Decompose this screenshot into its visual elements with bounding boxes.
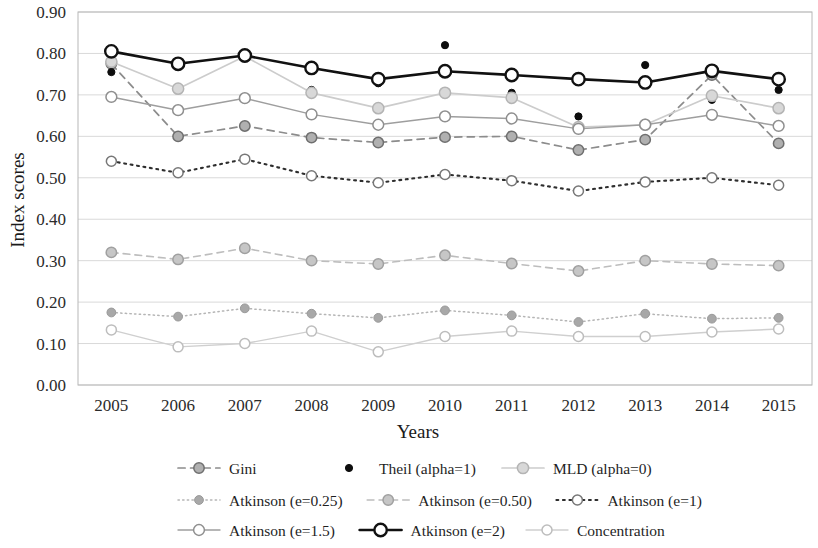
y-tick-0.60: 0.60	[36, 127, 66, 146]
data-point	[574, 318, 583, 327]
data-point	[640, 332, 650, 342]
y-tick-0.10: 0.10	[36, 335, 66, 354]
data-point	[774, 324, 784, 334]
data-point	[307, 326, 317, 336]
x-tick-2014: 2014	[695, 396, 730, 415]
legend-label: Atkinson (e=1)	[607, 492, 701, 510]
data-point	[575, 113, 582, 120]
x-tick-2015: 2015	[762, 396, 796, 415]
data-point	[441, 42, 448, 49]
data-point	[708, 314, 717, 323]
data-point	[373, 103, 384, 114]
data-point	[517, 462, 528, 473]
legend-label: Atkinson (e=1.5)	[229, 522, 335, 540]
data-point	[772, 73, 784, 85]
data-point	[506, 69, 518, 81]
data-point	[775, 86, 782, 93]
x-tick-2006: 2006	[161, 396, 195, 415]
data-point	[173, 131, 183, 141]
data-point	[573, 266, 583, 276]
data-point	[506, 113, 517, 124]
y-tick-0.70: 0.70	[36, 86, 66, 105]
data-point	[106, 325, 116, 335]
data-point	[194, 525, 205, 536]
y-tick-0.20: 0.20	[36, 293, 66, 312]
data-point	[306, 109, 317, 120]
data-point	[773, 121, 784, 132]
data-point	[572, 73, 584, 85]
data-point	[383, 495, 393, 505]
data-point	[773, 138, 783, 148]
y-tick-0.40: 0.40	[36, 210, 66, 229]
data-point	[195, 496, 204, 505]
x-tick-2007: 2007	[228, 396, 263, 415]
data-point	[174, 312, 183, 321]
data-point	[573, 123, 584, 134]
legend-label: Concentration	[577, 522, 665, 539]
data-point	[372, 73, 384, 85]
data-point	[507, 311, 516, 320]
x-tick-2011: 2011	[495, 396, 528, 415]
data-point	[507, 131, 517, 141]
data-point	[573, 186, 583, 196]
data-point	[306, 132, 316, 142]
data-point	[640, 134, 650, 144]
y-tick-0.80: 0.80	[36, 44, 66, 63]
data-point	[706, 90, 717, 101]
x-tick-2012: 2012	[561, 396, 595, 415]
data-point	[106, 92, 117, 103]
y-tick-0.50: 0.50	[36, 169, 66, 188]
data-point	[439, 87, 450, 98]
legend-label: Atkinson (e=0.25)	[229, 492, 343, 510]
data-point	[305, 62, 317, 74]
data-point	[640, 119, 651, 130]
data-point	[507, 258, 517, 268]
data-point	[640, 255, 650, 265]
data-point	[306, 255, 316, 265]
data-point	[572, 495, 582, 505]
data-point	[105, 45, 117, 57]
data-point	[507, 326, 517, 336]
data-point	[441, 306, 450, 315]
x-tick-2013: 2013	[628, 396, 662, 415]
y-axis-title: Index scores	[7, 152, 28, 248]
data-point	[306, 87, 317, 98]
data-point	[307, 171, 317, 181]
data-point	[707, 327, 717, 337]
legend-label: MLD (alpha=0)	[553, 460, 652, 478]
data-point	[507, 176, 517, 186]
data-point	[640, 177, 650, 187]
data-point	[774, 313, 783, 322]
data-point	[106, 156, 116, 166]
data-point	[172, 58, 184, 70]
data-point	[542, 525, 552, 535]
legend-label: Theil (alpha=1)	[379, 460, 476, 478]
data-point	[440, 332, 450, 342]
data-point	[440, 250, 450, 260]
data-point	[373, 178, 383, 188]
data-point	[374, 313, 383, 322]
data-point	[307, 309, 316, 318]
data-point	[108, 68, 115, 75]
data-point	[440, 132, 450, 142]
data-point	[707, 259, 717, 269]
y-tick-0.90: 0.90	[36, 3, 66, 22]
data-point	[374, 524, 386, 536]
data-point	[707, 109, 718, 120]
legend-item-atkinson-e-2[interactable]: Atkinson (e=2)	[360, 522, 505, 540]
data-point	[239, 93, 250, 104]
data-point	[240, 154, 250, 164]
data-point	[106, 247, 116, 257]
x-axis-title: Years	[397, 421, 439, 442]
data-point	[707, 173, 717, 183]
data-point	[240, 243, 250, 253]
data-point	[774, 180, 784, 190]
data-point	[345, 464, 352, 471]
y-tick-0.00: 0.00	[36, 376, 66, 395]
data-point	[440, 111, 451, 122]
data-point	[173, 342, 183, 352]
data-point	[173, 254, 183, 264]
x-tick-2009: 2009	[361, 396, 395, 415]
legend-label: Atkinson (e=0.50)	[418, 492, 532, 510]
data-point	[639, 76, 651, 88]
